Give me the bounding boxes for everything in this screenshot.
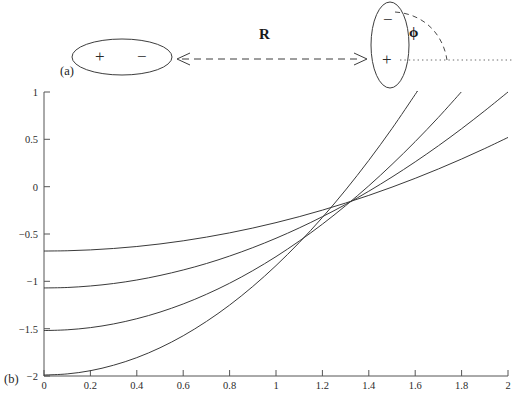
x-tick-label: 0.8	[223, 380, 236, 391]
y-tick-label: −2	[4, 371, 38, 382]
separation-label: R	[259, 26, 270, 43]
right-dipole-negative-sign: −	[383, 11, 393, 28]
x-tick-label: 1.6	[409, 380, 422, 391]
left-dipole-positive-sign: +	[95, 48, 105, 65]
chart-curve-1	[44, 137, 508, 251]
x-tick-label: 0.6	[177, 380, 190, 391]
y-tick-label: 1	[4, 87, 38, 98]
y-tick-label: −0.5	[4, 229, 38, 240]
left-dipole-ellipse	[72, 39, 172, 75]
x-tick-label: 1.2	[316, 380, 329, 391]
angle-label: ϕ	[409, 24, 418, 41]
y-tick-label: −1.5	[4, 323, 38, 334]
chart-curve-3	[44, 92, 461, 331]
panel-a-label: (a)	[60, 64, 74, 79]
x-tick-label: 1.4	[362, 380, 375, 391]
x-tick-label: 0.4	[130, 380, 143, 391]
x-tick-label: 0.2	[84, 380, 97, 391]
y-tick-label: −1	[4, 276, 38, 287]
x-tick-label: 0	[41, 380, 46, 391]
x-tick-label: 1.8	[455, 380, 468, 391]
angle-arc	[395, 12, 447, 60]
chart-curves	[44, 91, 508, 375]
x-axis-ticks	[44, 370, 508, 376]
y-tick-label: 0	[4, 181, 38, 192]
y-tick-label: 0.5	[4, 134, 38, 145]
x-tick-label: 2	[505, 380, 510, 391]
x-tick-label: 1	[273, 380, 278, 391]
figure-container: + − − + R ϕ (a) (b) 10.50−0.5−1−1.5−2 00…	[0, 0, 517, 402]
chart-curve-2	[44, 92, 508, 288]
right-dipole-positive-sign: +	[382, 51, 392, 68]
left-dipole-negative-sign: −	[137, 48, 147, 65]
y-axis-ticks	[44, 92, 50, 376]
figure-vector-layer	[0, 0, 517, 402]
